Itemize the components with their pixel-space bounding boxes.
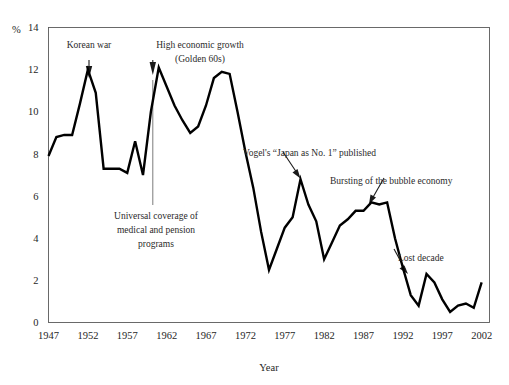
annotation-korean-war: Korean war [67, 40, 112, 50]
x-axis-title: Year [259, 362, 279, 373]
x-tick-label: 1952 [77, 330, 98, 341]
x-tick-label: 1947 [38, 330, 59, 341]
x-tick-label: 1967 [196, 330, 217, 341]
annotation-universal-coverage-line2: medical and pension [117, 225, 195, 235]
y-tick-label: 10 [28, 106, 39, 117]
x-tick-label: 1997 [432, 330, 453, 341]
x-tick-label: 1992 [392, 330, 413, 341]
annotation-bursting-bubble: Bursting of the bubble economy [330, 176, 453, 186]
annotation-universal-coverage-line3: programs [138, 239, 174, 249]
high-economic-growth-pointer [150, 60, 156, 75]
y-axis-ticks: 02468101214 [28, 22, 39, 328]
growth-rate-line-chart: 02468101214 1947195219571962196719721977… [0, 0, 509, 385]
x-tick-label: 2002 [471, 330, 492, 341]
y-tick-label: 2 [33, 275, 38, 286]
x-tick-label: 1977 [274, 330, 295, 341]
annotation-high-economic-growth-line2: (Golden 60s) [175, 54, 225, 65]
chart-page: 02468101214 1947195219571962196719721977… [0, 0, 509, 385]
annotation-lost-decade: Lost decade [398, 253, 444, 263]
y-tick-label: 6 [33, 191, 38, 202]
x-tick-label: 1972 [235, 330, 256, 341]
growth-rate-line [49, 68, 482, 312]
plot-frame [49, 28, 490, 323]
annotation-vogel: Vogel's “Japan as No. 1” published [243, 148, 376, 158]
y-tick-label: 0 [33, 317, 38, 328]
y-tick-label: 14 [28, 22, 39, 33]
y-axis-unit-label: % [12, 24, 21, 35]
annotation-universal-coverage-line1: Universal coverage of [114, 211, 199, 221]
x-axis-ticks: 1947195219571962196719721977198219871992… [38, 330, 492, 341]
y-tick-label: 8 [33, 149, 38, 160]
x-tick-label: 1962 [156, 330, 177, 341]
x-tick-label: 1957 [117, 330, 138, 341]
annotation-high-economic-growth-line1: High economic growth [156, 40, 244, 50]
x-tick-label: 1982 [314, 330, 335, 341]
y-tick-label: 4 [33, 233, 39, 244]
y-tick-label: 12 [28, 64, 39, 75]
x-tick-label: 1987 [353, 330, 374, 341]
